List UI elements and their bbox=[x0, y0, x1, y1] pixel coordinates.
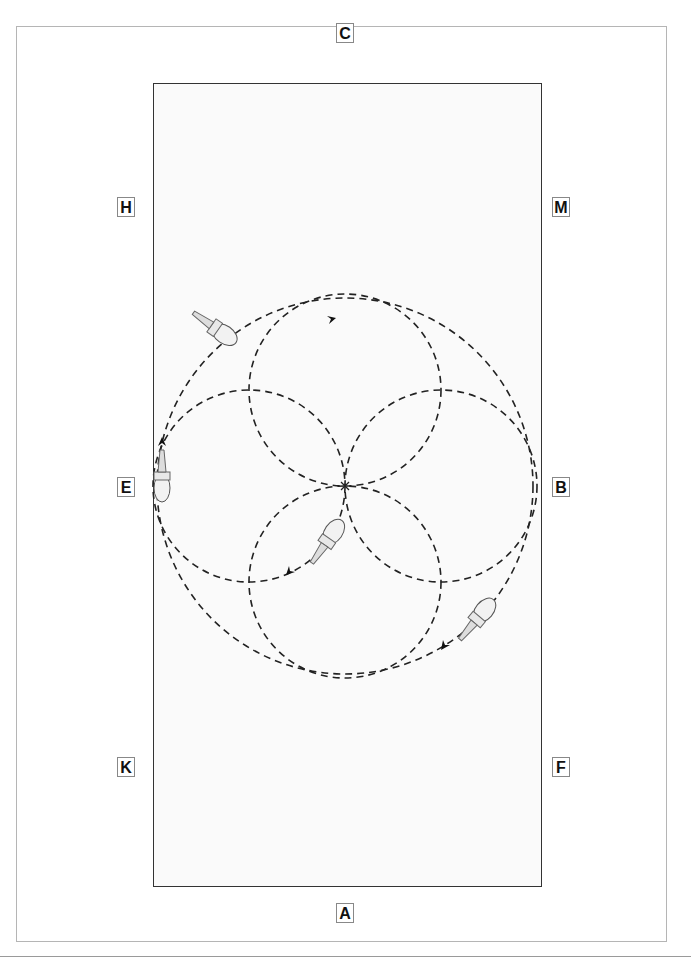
figure-paths bbox=[0, 0, 691, 962]
arrow-icon bbox=[286, 566, 295, 575]
horse-icon bbox=[453, 594, 500, 645]
arrow-icon bbox=[441, 640, 450, 650]
horse-icon bbox=[305, 515, 350, 568]
small-circle-bottom bbox=[249, 486, 441, 678]
horse-icon bbox=[188, 305, 241, 350]
arrow-icon bbox=[327, 316, 336, 324]
small-circle-right bbox=[345, 390, 537, 582]
small-circle-top bbox=[249, 294, 441, 486]
